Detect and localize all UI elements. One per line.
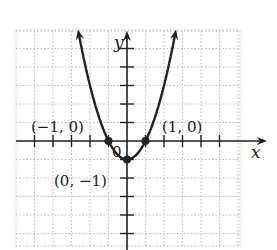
point-label-vertex: (0, −1): [54, 172, 107, 190]
grid: [16, 30, 240, 246]
data-point: [123, 156, 131, 164]
origin-label: 0: [112, 143, 122, 161]
data-point: [142, 137, 150, 145]
point-label-right: (1, 0): [162, 118, 202, 136]
point-label-left: (−1, 0): [31, 118, 84, 136]
x-axis-label: x: [251, 142, 261, 162]
y-axis-label: y: [113, 32, 124, 52]
graph: y x 0 (−1, 0) (1, 0) (0, −1): [0, 0, 277, 250]
